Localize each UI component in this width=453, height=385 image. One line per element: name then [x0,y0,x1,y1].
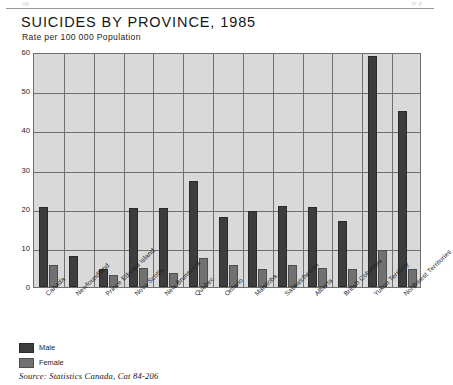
gridline-vertical [392,54,393,287]
gridline-vertical [183,54,184,287]
legend-label-female: Female [39,358,64,367]
legend-item-female: Female [19,356,64,369]
page-header-ghost-right: ty g [412,0,422,7]
chart-title: SUICIDES BY PROVINCE, 1985 [21,14,256,30]
legend-item-male: Male [19,341,64,354]
legend-swatch-female-icon [19,358,34,368]
y-axis-tick-label: 10 [5,244,30,253]
gridline-vertical [362,54,363,287]
gridline-vertical [124,54,125,287]
bar-male-yukon-territory [368,56,377,287]
gridline-vertical [64,54,65,287]
source-note: Source: Statistics Canada, Cat 84-206 [19,371,159,381]
y-axis-tick-label: 50 [5,87,30,96]
legend-label-male: Male [39,343,55,352]
scanned-page-header-artifact: ug ty g [0,0,440,11]
gridline-vertical [213,54,214,287]
bar-male-canada [39,207,48,287]
gridline-vertical [94,54,95,287]
y-axis-tick-label: 60 [5,48,30,57]
gridline-vertical [332,54,333,287]
y-axis-tick-label: 30 [5,166,30,175]
gridline-vertical [303,54,304,287]
page-header-rule [6,8,434,9]
bar-male-manitoba [248,211,257,287]
gridline-vertical [273,54,274,287]
bar-male-british-columbia [338,221,347,287]
legend-swatch-male-icon [19,343,34,353]
y-axis-tick-label: 20 [5,205,30,214]
bar-male-saskatchewan [278,206,287,287]
chart-legend: Male Female [19,341,64,371]
page-header-ghost-left: ug [22,0,29,7]
gridline-vertical [243,54,244,287]
bar-male-newfoundland [69,256,78,287]
y-axis-tick-label: 40 [5,126,30,135]
y-axis-tick-label: 0 [5,283,30,292]
chart-subtitle: Rate per 100 000 Population [22,32,141,42]
chart-plot-area [33,53,421,288]
bar-male-ontario [219,217,228,287]
